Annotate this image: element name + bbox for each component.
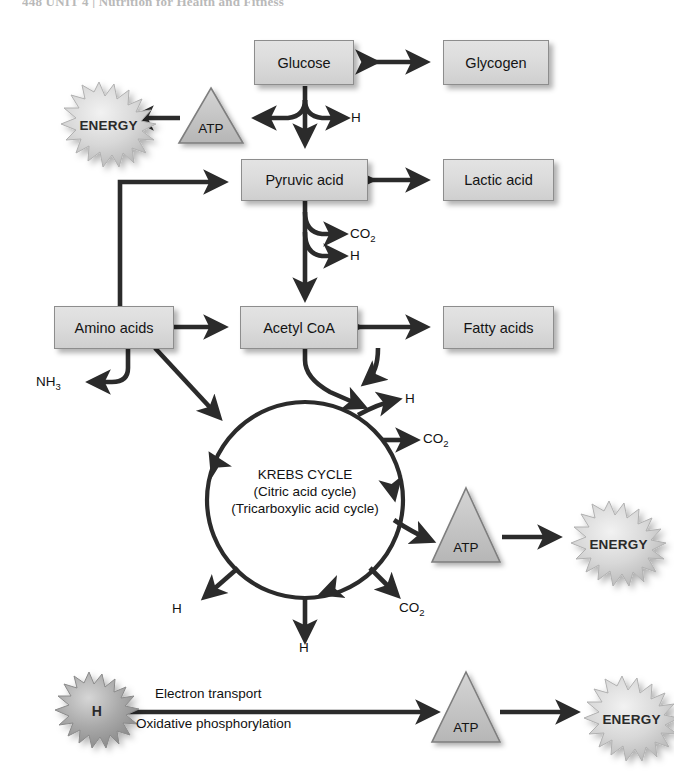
node-glycogen-label: Glycogen [465,55,526,71]
label-h-krebs-bottom: H [299,640,309,655]
node-acetyl-coa-label: Acetyl CoA [263,320,335,336]
node-fatty-acids[interactable]: Fatty acids [443,306,554,349]
label-oxidative-phosphorylation: Oxidative phosphorylation [136,716,291,731]
energy-label-krebs-wrap: ENERGY [571,501,666,587]
arrow-krebs-to-h-left [206,568,238,596]
atp-label-glycolysis: ATP [179,121,243,136]
node-lactic-acid[interactable]: Lactic acid [443,159,554,201]
node-glucose[interactable]: Glucose [254,40,354,85]
label-electron-transport: Electron transport [155,686,262,701]
energy-label-etc-wrap: ENERGY [584,676,674,762]
cycle-flow-arrow-left [212,457,215,462]
cycle-flow-arrow-bottom [324,590,332,593]
arrow-glucose-to-h [305,100,344,118]
label-co2-krebs-lower: CO2 [399,600,425,618]
krebs-cycle-line2: (Citric acid cycle) [185,483,425,500]
arrow-glucose-to-atp [258,100,305,118]
arrow-amino-to-pyruvate [120,182,222,310]
node-pyruvic-acid[interactable]: Pyruvic acid [241,159,368,201]
krebs-cycle-text: KREBS CYCLE (Citric acid cycle) (Tricarb… [185,466,425,517]
krebs-cycle-line3: (Tricarboxylic acid cycle) [185,500,425,517]
hydrogen-label-etc-wrap: H [55,672,139,749]
atp-label-glycolysis-wrap: ATP [179,88,243,143]
label-h-pyruvate-text: H [350,248,360,263]
node-fatty-acids-label: Fatty acids [463,320,533,336]
energy-label-glycolysis: ENERGY [61,82,156,168]
arrow-amino-to-nh3 [92,348,128,382]
arrow-fattyacids-down [366,348,378,382]
node-lactic-acid-label: Lactic acid [464,172,533,188]
arrow-krebs-to-co2-lower [370,568,396,594]
arrow-krebs-to-h-upper [358,400,396,415]
arrow-pyruvate-to-co2 [305,212,342,234]
label-h-pyruvate: H [350,248,360,263]
label-h-krebs-upper: H [405,391,415,406]
energy-label-etc: ENERGY [584,676,674,762]
energy-label-krebs: ENERGY [571,501,666,587]
label-h-krebs-upper-text: H [405,391,415,406]
label-h-krebs-left-text: H [172,601,182,616]
krebs-cycle-line1: KREBS CYCLE [185,466,425,483]
arrow-amino-to-krebs [155,348,218,416]
label-h-glycolysis-text: H [351,110,361,125]
node-glucose-label: Glucose [277,55,330,71]
arrow-acetyl-to-krebs [305,348,362,406]
node-glycogen[interactable]: Glycogen [443,40,549,85]
node-pyruvic-acid-label: Pyruvic acid [265,172,343,188]
label-h-krebs-bottom-text: H [299,640,309,655]
atp-label-krebs: ATP [432,540,500,555]
label-h-glycolysis: H [351,110,361,125]
label-h-krebs-left: H [172,601,182,616]
atp-label-etc-wrap: ATP [432,672,500,742]
node-amino-acids[interactable]: Amino acids [54,306,174,349]
node-acetyl-coa[interactable]: Acetyl CoA [240,306,358,349]
diagram-canvas: 448 UNIT 4 | Nutrition for Health and Fi… [0,0,674,771]
energy-label-glycolysis-wrap: ENERGY [61,82,156,168]
atp-label-etc: ATP [432,720,500,735]
node-amino-acids-label: Amino acids [75,320,154,336]
hydrogen-label-etc: H [55,672,139,749]
label-co2-krebs-upper: CO2 [423,431,449,449]
label-nh3-amino: NH3 [36,374,61,392]
label-co2-pyruvate: CO2 [350,226,376,244]
atp-label-krebs-wrap: ATP [432,488,500,562]
